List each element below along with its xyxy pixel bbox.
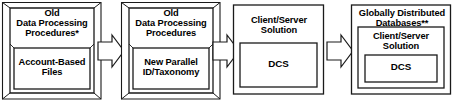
stage-4-middle-label: Client/Server Solution	[358, 31, 444, 51]
stage-3-title-line-2: Solution	[232, 25, 326, 35]
stage-3-inner-label: DCS	[240, 59, 317, 70]
stage-4-title-line-2: Databases**	[350, 18, 454, 28]
stage-3-title: Client/Server Solution	[232, 15, 326, 35]
stage-4-middle-line-2: Solution	[358, 41, 444, 51]
stage-1-title-line-2: Data Processing	[0, 18, 104, 28]
stage-2-title-line-1: Old	[119, 8, 223, 18]
stage-1-old-data-processing-procedures: Old Data Processing Procedures* Account-…	[0, 0, 104, 110]
stage-2-inner-line-1: New Parallel	[133, 57, 209, 67]
stage-4-inner-label: DCS	[365, 62, 437, 73]
stage-3-inner-line-1: DCS	[240, 59, 317, 70]
process-flow-diagram: Old Data Processing Procedures* Account-…	[0, 0, 454, 110]
stage-3-title-line-1: Client/Server	[232, 15, 326, 25]
stage-2-title-line-3: Procedures	[119, 28, 223, 38]
stage-2-title-line-2: Data Processing	[119, 18, 223, 28]
stage-2-title: Old Data Processing Procedures	[119, 8, 223, 38]
stage-3-client-server-solution: Client/Server Solution DCS	[232, 0, 326, 110]
stage-2-old-data-processing-procedures: Old Data Processing Procedures New Paral…	[119, 0, 223, 110]
stage-1-title: Old Data Processing Procedures*	[0, 8, 104, 38]
stage-2-inner-label: New Parallel ID/Taxonomy	[133, 57, 209, 77]
stage-1-inner-line-1: Account-Based	[14, 57, 90, 67]
stage-1-title-line-3: Procedures*	[0, 28, 104, 38]
stage-1-inner-label: Account-Based Files	[14, 57, 90, 77]
stage-4-middle-line-1: Client/Server	[358, 31, 444, 41]
stage-4-globally-distributed-databases: Globally Distributed Databases** Client/…	[350, 0, 454, 110]
stage-4-inner-line-1: DCS	[365, 62, 437, 73]
stage-4-title: Globally Distributed Databases**	[350, 8, 454, 28]
stage-2-inner-line-2: ID/Taxonomy	[133, 67, 209, 77]
stage-1-title-line-1: Old	[0, 8, 104, 18]
stage-4-title-line-1: Globally Distributed	[350, 8, 454, 18]
stage-1-inner-line-2: Files	[14, 67, 90, 77]
